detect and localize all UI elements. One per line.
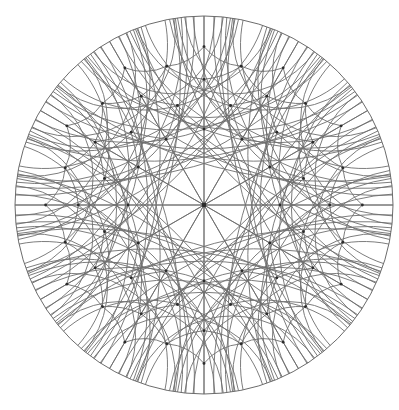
geodesic-arc (204, 47, 241, 67)
tiling-vertex (282, 341, 285, 344)
tiling-vertex (65, 124, 68, 127)
tiling-vertex (127, 204, 130, 207)
tiling-vertex (268, 242, 271, 245)
tiling-vertex (64, 166, 67, 169)
tiling-vertex (165, 269, 168, 272)
geodesic-arc (330, 205, 343, 242)
tiling-vertex (341, 241, 344, 244)
tiling-vertex (340, 124, 343, 127)
tiling-vertex (94, 266, 97, 269)
tiling-vertex (203, 329, 206, 332)
tiling-vertex (123, 66, 126, 69)
tiling-vertex (137, 242, 140, 245)
tiling-vertex (241, 138, 244, 141)
tiling-vertex (279, 204, 282, 207)
poincare-disk-svg (0, 0, 399, 410)
tiling-vertex (311, 141, 314, 144)
tiling-vertex (241, 269, 244, 272)
tiling-vertex (123, 341, 126, 344)
tiling-vertex (302, 230, 305, 233)
tiling-vertex (340, 283, 343, 286)
geodesic-arc (204, 331, 241, 344)
tiling-vertex (282, 66, 285, 69)
tiling-vertex (101, 102, 104, 105)
tiling-vertex (203, 45, 206, 48)
geodesic-arc (193, 194, 393, 394)
tiling-vertex (64, 241, 67, 244)
tiling-vertex (65, 283, 68, 286)
hyperbolic-tiling-figure (0, 0, 399, 410)
tiling-vertex (140, 95, 143, 98)
tiling-vertex (229, 303, 232, 306)
tiling-vertex (265, 312, 268, 315)
geodesic-arc (65, 168, 78, 205)
tiling-vertex (130, 276, 133, 279)
tiling-vertex (361, 204, 364, 207)
geodesic-arc (330, 168, 343, 205)
tiling-vertex (240, 342, 243, 345)
geodesic-arc (167, 344, 204, 364)
tiling-vertex (203, 280, 206, 283)
geodesic-arc (343, 168, 363, 205)
tiling-vertex (165, 65, 168, 68)
tiling-vertex (165, 342, 168, 345)
tiling-vertex (229, 104, 232, 107)
tiling-vertex (304, 305, 307, 308)
tiling-vertex (203, 362, 206, 365)
tiling-vertex (304, 102, 307, 105)
tiling-vertex (94, 141, 97, 144)
tiling-vertex (137, 166, 140, 169)
geodesic-arc (65, 205, 78, 242)
geodesic-arc (46, 205, 66, 242)
geodesic-arc (204, 66, 241, 79)
tiling-vertex (275, 276, 278, 279)
geodesic-arc (193, 16, 393, 216)
tiling-vertex (44, 204, 47, 207)
geodesic-arc (167, 331, 204, 344)
geodesic-arc (15, 194, 215, 394)
tiling-vertex (140, 312, 143, 315)
geodesic-arc (15, 16, 215, 216)
tiling-vertex (265, 95, 268, 98)
geodesic-arc (167, 47, 204, 67)
geodesic-arc (167, 66, 204, 79)
tiling-vertex (302, 177, 305, 180)
tiling-vertex (203, 128, 206, 131)
tiling-vertex (203, 78, 206, 81)
tiling-vertex (176, 104, 179, 107)
tiling-vertex (165, 138, 168, 141)
geodesic-arc (46, 168, 66, 205)
tiling-vertex (130, 131, 133, 134)
tiling-vertex (275, 131, 278, 134)
tiling-vertex (240, 65, 243, 68)
tiling-vertex (176, 303, 179, 306)
tiling-vertex (77, 204, 80, 207)
tiling-vertex (103, 230, 106, 233)
tiling-vertex (101, 305, 104, 308)
tiling-vertex (328, 204, 331, 207)
tiling-vertex (311, 266, 314, 269)
geodesic-arc (204, 344, 241, 364)
geodesic-arc (343, 205, 363, 242)
tiling-vertex (268, 166, 271, 169)
tiling-vertex (341, 166, 344, 169)
tiling-vertex (103, 177, 106, 180)
tiling-vertex (202, 203, 207, 208)
